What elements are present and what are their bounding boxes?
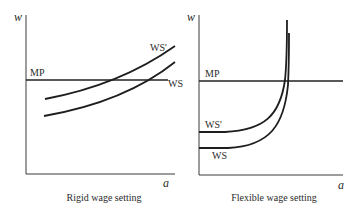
ws-label-flexible: WS: [212, 150, 227, 161]
ws-curve-flexible: [199, 33, 289, 148]
x-axis-label-flexible: a: [338, 178, 344, 192]
y-axis-label-rigid: w: [14, 10, 22, 24]
panel-title-flexible: Flexible wage setting: [231, 192, 317, 203]
y-axis-label-flexible: w: [187, 10, 195, 24]
mp-label-flexible: MP: [205, 68, 220, 79]
panel-rigid: w a MP WS' WS Rigid wage setting: [14, 10, 183, 203]
ws-prime-curve-rigid: [45, 46, 175, 99]
mp-label-rigid: MP: [30, 67, 45, 78]
ws-curve-rigid: [44, 62, 175, 116]
x-axis-label-rigid: a: [163, 176, 169, 190]
ws-prime-label-flexible: WS': [205, 119, 222, 130]
panel-flexible: w a MP WS' WS Flexible wage setting: [187, 10, 344, 203]
panel-title-rigid: Rigid wage setting: [67, 192, 142, 203]
ws-label-rigid: WS: [168, 78, 183, 89]
ws-prime-label-rigid: WS': [150, 42, 167, 53]
diagram-canvas: w a MP WS' WS Rigid wage setting w a MP …: [0, 0, 358, 211]
